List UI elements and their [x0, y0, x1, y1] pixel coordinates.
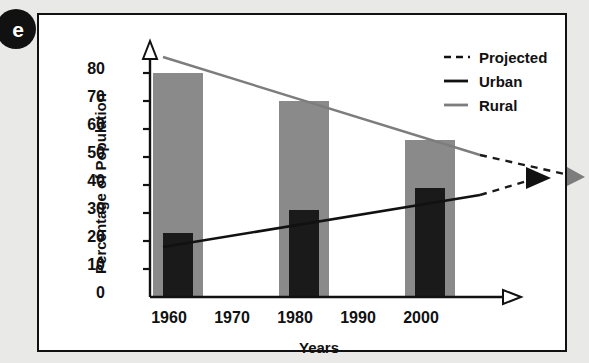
- legend-key-urban-icon: [443, 74, 471, 88]
- legend-item-rural: Rural: [443, 93, 547, 117]
- legend-label-urban: Urban: [479, 73, 522, 90]
- bar-group-1960: [153, 73, 203, 297]
- legend-item-urban: Urban: [443, 69, 547, 93]
- y-axis-arrowhead: [143, 41, 157, 59]
- legend-key-rural-icon: [443, 98, 471, 112]
- arrowhead-rural-projected: [567, 167, 585, 186]
- legend-label-projected: Projected: [479, 49, 547, 66]
- panel-label-badge: e: [0, 9, 36, 49]
- legend-label-rural: Rural: [479, 97, 517, 114]
- chart-frame: Percentage of Population 80 70 60 50 40 …: [37, 13, 567, 352]
- legend-key-dashed-icon: [443, 50, 471, 64]
- figure-panel: e Percentage of Population 80 70 60 50 4…: [0, 0, 589, 363]
- panel-label-text: e: [8, 19, 24, 40]
- bar-group-1980: [279, 101, 329, 297]
- projected-line-rural: [480, 155, 569, 175]
- legend-item-projected: Projected: [443, 45, 547, 69]
- x-axis-arrowhead: [503, 290, 521, 304]
- chart-legend: Projected Urban Rural: [443, 45, 547, 117]
- projected-line-urban: [480, 179, 534, 195]
- bar-group-2000: [405, 140, 455, 297]
